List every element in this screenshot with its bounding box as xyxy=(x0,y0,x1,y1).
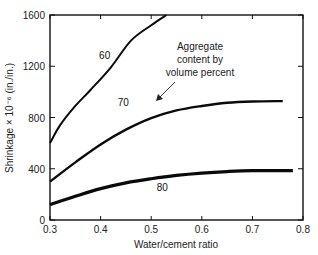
annotation-line-2: content by xyxy=(177,54,223,65)
y-axis-title: Shrinkage × 10⁻⁶ (in./in.) xyxy=(4,63,15,173)
shrinkage-chart: 0.30.40.50.60.70.8 040080012001600 60708… xyxy=(0,0,318,255)
x-axis-title: Water/cement ratio xyxy=(134,239,219,250)
x-tick-label: 0.6 xyxy=(195,224,209,235)
curves xyxy=(50,15,293,205)
y-tick-label: 400 xyxy=(28,164,45,175)
annotation-arrow-line xyxy=(159,82,175,98)
x-tick-label: 0.7 xyxy=(245,224,259,235)
annotation-line-1: Aggregate xyxy=(177,41,224,52)
x-tick-label: 0.8 xyxy=(296,224,310,235)
y-tick-label: 0 xyxy=(39,215,45,226)
x-tick-label: 0.3 xyxy=(43,224,57,235)
y-tick-label: 1200 xyxy=(23,61,46,72)
y-tick-label: 1600 xyxy=(23,10,46,21)
annotation-line-3: volume percent xyxy=(166,67,235,78)
curve-label-80: 80 xyxy=(157,182,169,193)
x-tick-label: 0.4 xyxy=(94,224,108,235)
annotation: Aggregate content by volume percent xyxy=(156,41,234,101)
curve-labels: 607080 xyxy=(99,50,168,193)
curve-label-60: 60 xyxy=(99,50,111,61)
x-tick-label: 0.5 xyxy=(144,224,158,235)
curve-80 xyxy=(50,171,293,205)
curve-label-70: 70 xyxy=(118,97,130,108)
curve-60 xyxy=(50,15,166,143)
y-tick-label: 800 xyxy=(28,113,45,124)
